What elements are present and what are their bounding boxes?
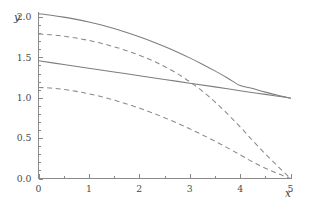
ticks-group [39,18,292,180]
curve-upper-solid [39,14,291,98]
axes-group [39,12,292,179]
y-axis-label: y [13,11,21,23]
y-tick-label: 0.0 [17,173,32,184]
y-tick-label: 1.5 [17,52,32,63]
curve-upper-dashed [39,34,291,179]
x-axis-label: x [285,187,291,199]
y-tick-label: 0.5 [17,132,32,143]
x-tick-label: 0 [36,183,42,194]
x-tick-label: 3 [187,183,193,194]
x-tick-label: 4 [237,183,243,194]
x-tick-label: 2 [136,183,142,194]
curve-lower-dashed [39,87,291,178]
plot-canvas: 0.00.51.01.52.0012345 yx [0,0,309,212]
y-tick-label: 1.0 [17,92,32,103]
plot-figure: 0.00.51.01.52.0012345 yx [0,0,309,212]
curves-group [39,14,291,179]
tick-labels-group: 0.00.51.01.52.0012345 [17,11,294,193]
x-tick-label: 1 [86,183,92,194]
axis-names-group: yx [13,11,291,199]
